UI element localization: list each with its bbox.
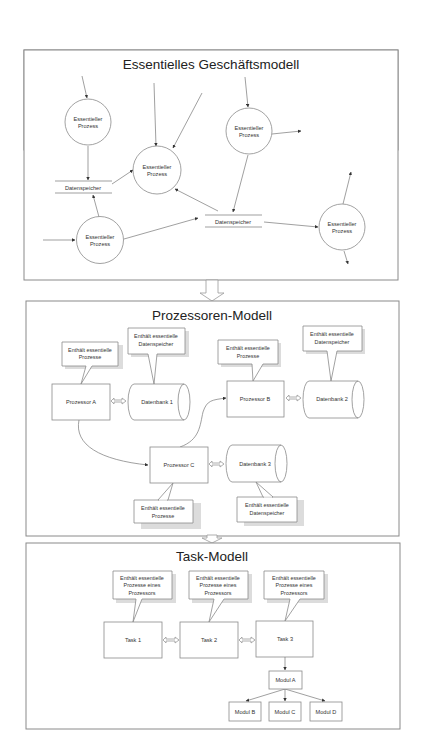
svg-text:Datenspeicher: Datenspeicher bbox=[315, 339, 350, 345]
svg-text:Prozessors: Prozessors bbox=[281, 590, 308, 596]
process-node[interactable]: Essentieller Prozess bbox=[226, 108, 272, 154]
database-1[interactable]: Datenbank 1 bbox=[128, 384, 190, 420]
svg-text:Prozesse: Prozesse bbox=[237, 353, 259, 359]
svg-text:Prozessor C: Prozessor C bbox=[164, 462, 195, 468]
task-3[interactable]: Task 3 bbox=[256, 621, 313, 657]
svg-text:Prozessor B: Prozessor B bbox=[240, 396, 271, 402]
svg-text:Datenspeicher: Datenspeicher bbox=[65, 185, 101, 191]
svg-text:Prozess: Prozess bbox=[239, 132, 259, 138]
diagram-canvas: Essentielles Geschäftsmodell Essentielle… bbox=[0, 0, 421, 735]
svg-text:Enthält essentielle: Enthält essentielle bbox=[68, 347, 112, 353]
svg-text:Prozesse: Prozesse bbox=[152, 513, 174, 519]
svg-text:Essentieller: Essentieller bbox=[74, 116, 103, 122]
svg-text:Prozess: Prozess bbox=[78, 123, 98, 129]
modul-c[interactable]: Modul C bbox=[269, 702, 301, 721]
processor-c[interactable]: Prozessor C bbox=[150, 447, 208, 483]
svg-text:Prozess: Prozess bbox=[147, 171, 167, 177]
processor-model-title: Prozessoren-Modell bbox=[152, 308, 272, 323]
process-node[interactable]: Essentieller Prozess bbox=[65, 99, 111, 145]
processor-b[interactable]: Prozessor B bbox=[227, 381, 284, 417]
svg-text:Datenspeicher: Datenspeicher bbox=[139, 341, 174, 347]
svg-text:Essentieller: Essentieller bbox=[86, 234, 115, 240]
svg-text:Enthält essentielle: Enthält essentielle bbox=[134, 333, 178, 339]
svg-text:Prozess: Prozess bbox=[90, 241, 110, 247]
modul-d[interactable]: Modul D bbox=[310, 702, 342, 721]
modul-b[interactable]: Modul B bbox=[229, 702, 261, 721]
modul-a[interactable]: Modul A bbox=[269, 671, 302, 689]
task-model-title: Task-Modell bbox=[176, 549, 248, 564]
task-model-section: Task-Modell Enthält essentielle Prozesse… bbox=[26, 543, 400, 729]
svg-text:Enthält essentielle: Enthält essentielle bbox=[226, 345, 270, 351]
task-1[interactable]: Task 1 bbox=[104, 622, 162, 658]
svg-text:Datenbank 2: Datenbank 2 bbox=[316, 396, 348, 402]
processor-model-section: Prozessoren-Modell Enthält essentielle P… bbox=[26, 301, 399, 536]
process-node[interactable]: Essentieller Prozess bbox=[77, 217, 124, 264]
svg-text:Prozessor A: Prozessor A bbox=[66, 399, 96, 405]
svg-text:Enthält essentielle: Enthält essentielle bbox=[196, 575, 240, 581]
svg-text:Modul B: Modul B bbox=[235, 709, 256, 715]
svg-text:Task 2: Task 2 bbox=[201, 637, 217, 643]
svg-text:Datenspeicher: Datenspeicher bbox=[215, 219, 251, 225]
svg-text:Datenbank 3: Datenbank 3 bbox=[239, 461, 271, 467]
svg-text:Prozessors: Prozessors bbox=[129, 590, 156, 596]
svg-text:Task 1: Task 1 bbox=[125, 637, 141, 643]
svg-text:Prozesse: Prozesse bbox=[79, 354, 101, 360]
svg-text:Modul D: Modul D bbox=[316, 709, 337, 715]
svg-text:Prozesse eines: Prozesse eines bbox=[200, 582, 237, 588]
svg-text:Essentieller: Essentieller bbox=[143, 164, 172, 170]
svg-text:Enthält essentielle: Enthält essentielle bbox=[141, 505, 185, 511]
database-3[interactable]: Datenbank 3 bbox=[226, 445, 287, 482]
database-2[interactable]: Datenbank 2 bbox=[303, 381, 364, 418]
svg-text:Task 3: Task 3 bbox=[277, 636, 293, 642]
svg-text:Modul A: Modul A bbox=[275, 677, 295, 683]
svg-text:Modul C: Modul C bbox=[275, 709, 296, 715]
process-node[interactable]: Essentieller Prozess bbox=[319, 204, 365, 250]
svg-text:Enthält essentielle: Enthält essentielle bbox=[310, 331, 354, 337]
svg-text:Essentieller: Essentieller bbox=[235, 125, 264, 131]
svg-text:Prozesse eines: Prozesse eines bbox=[276, 582, 313, 588]
svg-text:Enthält essentielle: Enthält essentielle bbox=[120, 575, 164, 581]
svg-text:Essentieller: Essentieller bbox=[328, 221, 357, 227]
process-node[interactable]: Essentieller Prozess bbox=[133, 146, 181, 194]
business-model-title: Essentielles Geschäftsmodell bbox=[123, 57, 299, 72]
processor-a[interactable]: Prozessor A bbox=[52, 384, 110, 420]
svg-text:Prozesse eines: Prozesse eines bbox=[124, 582, 161, 588]
svg-text:Enthält essentielle: Enthält essentielle bbox=[272, 575, 316, 581]
business-model-section: Essentielles Geschäftsmodell Essentielle… bbox=[24, 50, 398, 280]
transition-arrow-down bbox=[200, 280, 224, 301]
svg-text:Prozessors: Prozessors bbox=[205, 590, 232, 596]
svg-text:Enthält essentielle: Enthält essentielle bbox=[245, 502, 289, 508]
task-2[interactable]: Task 2 bbox=[180, 622, 238, 658]
svg-text:Datenspeicher: Datenspeicher bbox=[250, 510, 285, 516]
svg-text:Prozess: Prozess bbox=[332, 228, 352, 234]
svg-text:Datenbank 1: Datenbank 1 bbox=[141, 399, 173, 405]
